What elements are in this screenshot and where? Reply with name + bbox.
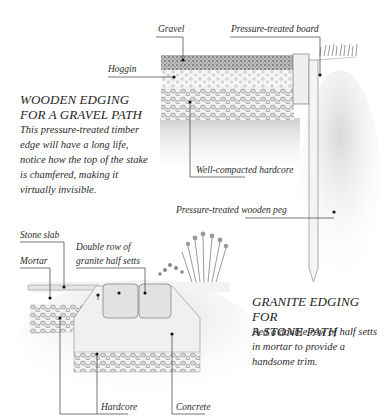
label-stone-slab: Stone slab [20,229,59,241]
label-hoggin: Hoggin [108,63,137,75]
label-hardcore: Hardcore [101,401,137,413]
label-pressure-treated-board: Pressure-treated board [231,23,319,35]
heading-wooden-edging: WOODEN EDGING FOR A GRAVEL PATH [20,92,142,122]
description-wooden-edging: This pressure-treated timber edge will h… [20,122,148,197]
body-line: notice how the top of the stake [20,152,148,167]
body-line: virtually invisible. [20,182,148,197]
body-line: edge will have a long life, [20,137,148,152]
description-granite-edging: Bed a double row of half setts in mortar… [252,324,377,369]
heading-line: WOODEN EDGING [20,92,142,107]
body-line: handsome trim. [252,354,377,369]
body-line: Bed a double row of half setts [252,324,377,339]
label-mortar: Mortar [20,255,47,267]
heading-line: FOR A GRAVEL PATH [20,107,142,122]
label-well-compacted-hardcore: Well-compacted hardcore [196,164,293,176]
edging-diagram: Gravel Pressure-treated board Hoggin Wel… [0,0,386,418]
heading-line: GRANITE EDGING FOR [252,294,386,324]
body-line: is chamfered, making it [20,167,148,182]
label-wooden-peg: Pressure-treated wooden peg [176,204,287,216]
stone-path-section [20,232,260,400]
body-line: in mortar to provide a [252,339,377,354]
body-line: This pressure-treated timber [20,122,148,137]
label-gravel: Gravel [158,23,184,35]
label-setts-line2: granite half setts [76,255,140,267]
label-setts-line1: Double row of [76,241,131,253]
label-concrete: Concrete [176,401,210,413]
